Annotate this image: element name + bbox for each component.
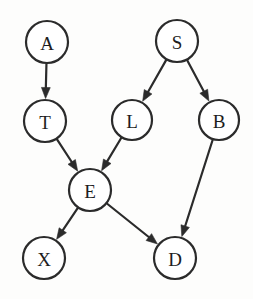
edge-t-to-e	[57, 139, 78, 171]
edge-s-to-b	[187, 60, 209, 101]
arrowhead-icon	[68, 160, 78, 172]
nodes-layer: ASTLBEXD	[23, 20, 239, 279]
node-x[interactable]: X	[23, 237, 65, 279]
arrowhead-icon	[41, 87, 50, 98]
node-e[interactable]: E	[69, 169, 111, 211]
node-label-e: E	[84, 181, 96, 202]
edge-l-to-e	[102, 138, 122, 171]
node-label-x: X	[37, 249, 51, 270]
node-label-b: B	[213, 111, 226, 132]
edge-b-to-d	[181, 140, 213, 237]
edge-e-to-x	[57, 208, 78, 239]
node-label-t: T	[39, 112, 51, 133]
edge-a-to-t	[41, 64, 50, 99]
arrowhead-icon	[102, 159, 111, 171]
edge-s-to-l	[143, 60, 166, 101]
edges-layer	[41, 60, 212, 244]
node-label-d: D	[168, 249, 182, 270]
node-t[interactable]: T	[24, 100, 66, 142]
node-label-l: L	[126, 111, 138, 132]
node-s[interactable]: S	[156, 20, 198, 62]
node-label-a: A	[40, 33, 54, 54]
arrowhead-icon	[181, 225, 189, 237]
node-a[interactable]: A	[26, 21, 68, 63]
node-d[interactable]: D	[154, 237, 196, 279]
graph-svg: ASTLBEXD	[0, 0, 253, 299]
diagram-canvas: ASTLBEXD	[0, 0, 253, 299]
arrowhead-icon	[143, 90, 152, 102]
arrowhead-icon	[57, 228, 67, 240]
edge-e-to-d	[107, 204, 157, 244]
arrowhead-icon	[200, 89, 209, 101]
node-label-s: S	[172, 32, 183, 53]
node-l[interactable]: L	[112, 100, 152, 140]
node-b[interactable]: B	[199, 100, 239, 140]
